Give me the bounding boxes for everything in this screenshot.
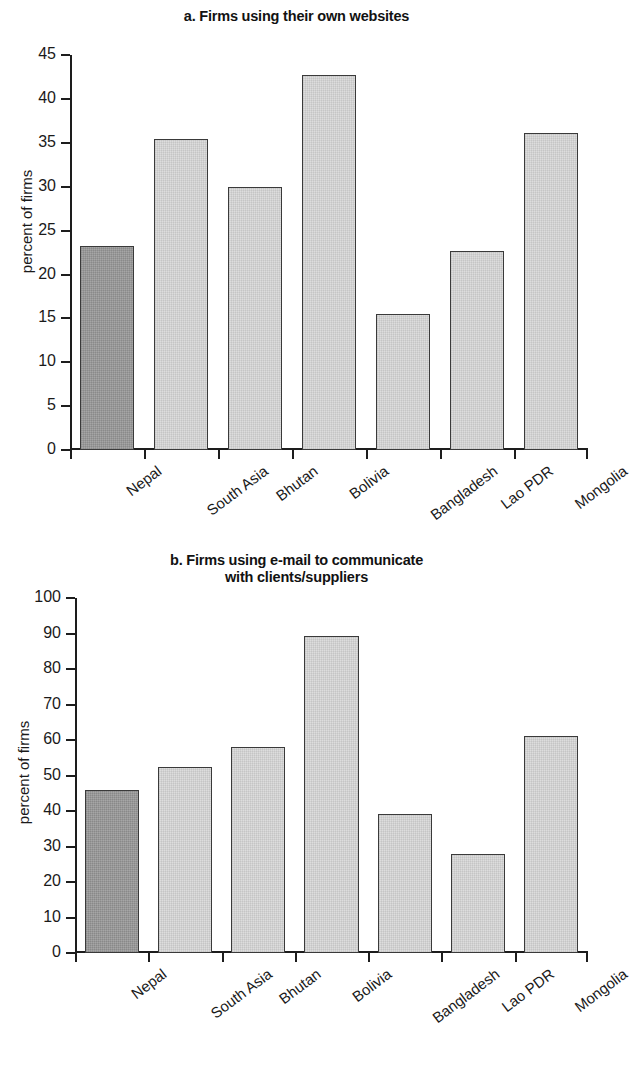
panel-a-y-axis-label: percent of firms: [18, 127, 35, 317]
y-axis-tick: 5: [61, 405, 70, 407]
x-axis-tick: [514, 450, 516, 459]
bar-lao-pdr: [451, 854, 505, 953]
y-axis-tick: 25: [61, 230, 70, 232]
bar-mongolia: [524, 133, 577, 450]
x-axis-category-label: South Asia: [203, 462, 271, 519]
x-axis-category-label: Nepal: [123, 462, 165, 499]
y-axis-tick: 70: [66, 704, 75, 706]
x-axis-tick: [586, 953, 588, 962]
x-axis-tick: [295, 953, 297, 962]
x-axis-tick: [222, 953, 224, 962]
y-axis-tick: 90: [66, 633, 75, 635]
x-axis-category-label: Lao PDR: [497, 462, 556, 512]
bar-bolivia: [302, 75, 355, 450]
chart-panel-a: a. Firms using their own websites percen…: [0, 0, 593, 540]
y-axis-tick: 20: [66, 881, 75, 883]
x-axis-tick: [515, 953, 517, 962]
x-axis-category-label: Mongolia: [572, 965, 630, 1015]
x-axis-category-label: Bhutan: [273, 462, 321, 504]
y-axis-tick-label: 40: [43, 800, 61, 820]
panel-a-title: a. Firms using their own websites: [0, 8, 593, 25]
x-axis-category-label: Bangladesh: [429, 965, 503, 1026]
y-axis-tick-label: 0: [47, 439, 56, 459]
y-axis-tick-label: 100: [34, 587, 61, 607]
bar-bangladesh: [376, 314, 429, 450]
x-axis-tick: [586, 450, 588, 459]
bar-bhutan: [228, 187, 281, 450]
x-axis-tick: [70, 450, 72, 459]
x-axis-category-label: Mongolia: [571, 462, 630, 512]
x-axis-tick: [368, 953, 370, 962]
y-axis-tick: 50: [66, 775, 75, 777]
y-axis-tick-label: 90: [43, 623, 61, 643]
y-axis-tick-label: 0: [52, 942, 61, 962]
x-axis-tick: [148, 953, 150, 962]
y-axis-tick: 45: [61, 54, 70, 56]
panel-b-y-axis-label: percent of firms: [15, 678, 32, 868]
x-axis-category-label: Nepal: [128, 965, 170, 1002]
x-axis-category-label: Bhutan: [276, 965, 324, 1007]
panel-b-plot-area: percent of firms 0102030405060708090100N…: [0, 586, 593, 1066]
y-axis-tick: 80: [66, 668, 75, 670]
y-axis-tick: 35: [61, 142, 70, 144]
panel-b-y-axis-line: [75, 598, 77, 953]
y-axis-tick-label: 20: [43, 871, 61, 891]
bar-nepal: [85, 790, 139, 953]
x-axis-category-label: Bolivia: [346, 462, 392, 502]
y-axis-tick-label: 45: [38, 44, 56, 64]
y-axis-tick: 40: [66, 810, 75, 812]
bar-bhutan: [231, 747, 285, 953]
y-axis-tick-label: 15: [38, 307, 56, 327]
y-axis-tick: 100: [66, 597, 75, 599]
x-axis-tick: [440, 450, 442, 459]
bar-mongolia: [524, 736, 578, 954]
panel-b-axes: 0102030405060708090100NepalSouth AsiaBhu…: [75, 598, 588, 953]
y-axis-tick: 10: [66, 917, 75, 919]
chart-panel-b: b. Firms using e-mail to communicate wit…: [0, 540, 593, 1066]
y-axis-tick: 40: [61, 98, 70, 100]
y-axis-tick-label: 10: [43, 907, 61, 927]
y-axis-tick: 20: [61, 274, 70, 276]
panel-b-title-line1: b. Firms using e-mail to communicate: [24, 552, 569, 569]
y-axis-tick: 0: [61, 449, 70, 451]
y-axis-tick: 30: [61, 186, 70, 188]
x-axis-category-label: Lao PDR: [498, 965, 557, 1015]
y-axis-tick: 10: [61, 361, 70, 363]
x-axis-tick: [441, 953, 443, 962]
y-axis-tick-label: 50: [43, 765, 61, 785]
bar-bolivia: [304, 636, 358, 954]
y-axis-tick-label: 10: [38, 351, 56, 371]
x-axis-tick: [75, 953, 77, 962]
y-axis-tick-label: 80: [43, 658, 61, 678]
x-axis-tick: [366, 450, 368, 459]
y-axis-tick-label: 20: [38, 264, 56, 284]
panel-a-y-axis-line: [70, 55, 72, 450]
y-axis-tick-label: 40: [38, 88, 56, 108]
x-axis-tick: [292, 450, 294, 459]
bar-south-asia: [154, 139, 207, 451]
y-axis-tick-label: 25: [38, 220, 56, 240]
panel-b-title-line2: with clients/suppliers: [24, 569, 569, 586]
y-axis-tick-label: 5: [47, 395, 56, 415]
panel-a-axes: 051015202530354045NepalSouth AsiaBhutanB…: [70, 55, 588, 450]
y-axis-tick: 30: [66, 846, 75, 848]
y-axis-tick-label: 35: [38, 132, 56, 152]
panel-a-plot-area: percent of firms 051015202530354045Nepal…: [0, 25, 593, 525]
y-axis-tick-label: 30: [43, 836, 61, 856]
x-axis-category-label: South Asia: [207, 965, 275, 1022]
y-axis-tick: 15: [61, 317, 70, 319]
bar-south-asia: [158, 767, 212, 954]
x-axis-category-label: Bangladesh: [427, 462, 501, 523]
x-axis-tick: [218, 450, 220, 459]
x-axis-tick: [144, 450, 146, 459]
bar-nepal: [80, 246, 133, 450]
y-axis-tick-label: 70: [43, 694, 61, 714]
y-axis-tick: 60: [66, 739, 75, 741]
x-axis-category-label: Bolivia: [348, 965, 394, 1005]
y-axis-tick-label: 60: [43, 729, 61, 749]
y-axis-tick-label: 30: [38, 176, 56, 196]
panel-b-title: b. Firms using e-mail to communicate wit…: [0, 552, 593, 586]
bar-bangladesh: [378, 814, 432, 954]
y-axis-tick: 0: [66, 952, 75, 954]
bar-lao-pdr: [450, 251, 503, 450]
